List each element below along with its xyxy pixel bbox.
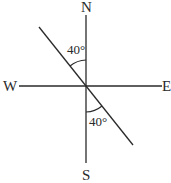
lower-angle-arc: [86, 106, 102, 112]
east-label: E: [162, 78, 171, 94]
south-label: S: [82, 167, 90, 183]
upper-angle-arc: [70, 60, 86, 66]
west-label: W: [3, 78, 18, 94]
lower-angle-label: 40°: [89, 114, 107, 129]
upper-angle-label: 40°: [67, 42, 85, 57]
north-label: N: [81, 0, 92, 15]
compass-angle-diagram: N S W E 40° 40°: [0, 0, 171, 183]
